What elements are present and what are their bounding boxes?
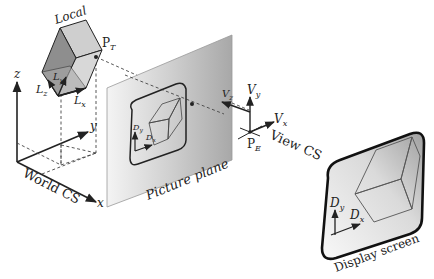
diagram-canvas: z y x World CS Local PT Lz Ly Lx bbox=[0, 0, 434, 279]
world-x-label: x bbox=[97, 196, 104, 210]
vx-label: Vx bbox=[274, 112, 288, 128]
vy-label: Vy bbox=[247, 83, 261, 99]
view-cs-label: View CS bbox=[267, 127, 324, 164]
vy-label-sub: y bbox=[255, 90, 261, 99]
picture-plane-point bbox=[190, 102, 194, 106]
ds-dy-sub: y bbox=[339, 203, 345, 212]
view-cs: Vz Vy Vx PE View CS bbox=[222, 83, 324, 163]
vx-label-sub: x bbox=[283, 119, 288, 128]
local-cube: Local PT Lz Ly Lx bbox=[35, 3, 116, 109]
ds-dy-main: D bbox=[329, 196, 340, 210]
world-cs-label: World CS bbox=[21, 165, 83, 207]
pp-dy-sub: y bbox=[138, 126, 143, 134]
pt-label-sub: T bbox=[110, 43, 116, 52]
viewing-diagram: z y x World CS Local PT Lz Ly Lx bbox=[0, 0, 434, 279]
pe-label-sub: E bbox=[254, 144, 261, 153]
ds-dx-main: D bbox=[349, 208, 360, 222]
ds-dx-sub: x bbox=[360, 215, 365, 224]
lz-label-sub: z bbox=[42, 89, 48, 98]
world-z-label: z bbox=[13, 67, 21, 81]
lx-label-main: L bbox=[73, 94, 81, 107]
pe-label: PE bbox=[247, 137, 261, 153]
lz-label-main: L bbox=[35, 83, 43, 96]
lz-label: Lz bbox=[35, 83, 48, 98]
world-y-axis bbox=[17, 132, 88, 162]
pt-label-main: P bbox=[102, 36, 110, 50]
pe-point bbox=[248, 130, 252, 134]
pt-point bbox=[94, 55, 98, 59]
display-screen: Dy Dx Display screen bbox=[322, 133, 424, 275]
pe-label-main: P bbox=[247, 137, 255, 151]
world-y-label: y bbox=[89, 119, 97, 133]
picture-plane: Dy Dx Picture plane bbox=[107, 35, 232, 207]
lx-label: Lx bbox=[73, 94, 86, 109]
vz-label-sub: z bbox=[228, 94, 233, 102]
lx-label-sub: x bbox=[81, 100, 86, 109]
pt-label: PT bbox=[102, 36, 116, 52]
